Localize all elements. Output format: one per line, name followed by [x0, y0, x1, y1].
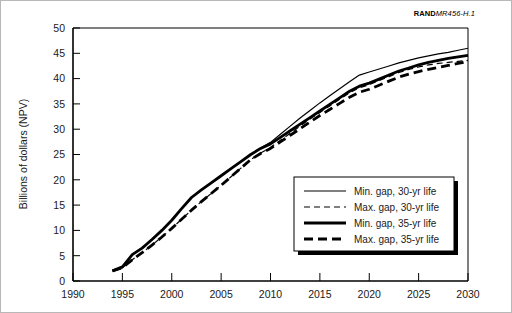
x-axis-ticks: 199019952000200520102015202020252030: [61, 273, 480, 300]
y-tick-label: 35: [53, 98, 65, 110]
y-tick-label: 25: [53, 148, 65, 160]
y-tick-label: 5: [59, 250, 65, 262]
y-tick-label: 15: [53, 199, 65, 211]
legend-label: Max. gap, 30-yr life: [354, 202, 439, 213]
x-tick-label: 2020: [358, 288, 382, 300]
y-tick-label: 30: [53, 123, 65, 135]
x-tick-label: 2010: [259, 288, 283, 300]
legend-label: Min. gap, 30-yr life: [354, 186, 437, 197]
chart-legend[interactable]: Min. gap, 30-yr lifeMax. gap, 30-yr life…: [294, 177, 458, 255]
y-tick-label: 45: [53, 47, 65, 59]
y-axis-title: Billions of dollars (NPV): [17, 99, 29, 209]
y-tick-label: 50: [53, 22, 65, 34]
y-tick-label: 0: [59, 275, 65, 287]
x-tick-label: 1990: [61, 288, 85, 300]
line-chart: 05101520253035404550 1990199520002005201…: [1, 1, 512, 313]
y-axis-title-text: Billions of dollars (NPV): [17, 99, 29, 209]
x-tick-label: 2025: [407, 288, 431, 300]
legend-label: Max. gap, 35-yr life: [354, 234, 439, 245]
y-axis-ticks: 05101520253035404550: [53, 22, 80, 287]
figure-container: RANDMR456-H.1 05101520253035404550 19901…: [0, 0, 512, 313]
legend-label: Min. gap, 35-yr life: [354, 218, 437, 229]
y-tick-label: 10: [53, 224, 65, 236]
x-tick-label: 2015: [308, 288, 332, 300]
x-tick-label: 1995: [111, 288, 135, 300]
y-tick-label: 20: [53, 174, 65, 186]
x-tick-label: 2000: [160, 288, 184, 300]
x-tick-label: 2005: [209, 288, 233, 300]
y-tick-label: 40: [53, 72, 65, 84]
x-tick-label: 2030: [456, 288, 480, 300]
